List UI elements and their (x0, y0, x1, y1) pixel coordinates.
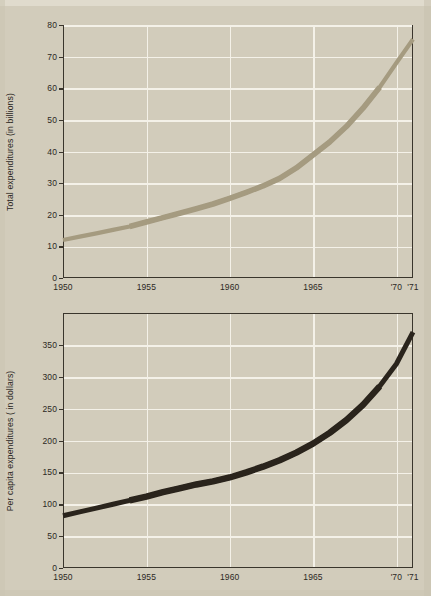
series-path (63, 332, 413, 516)
chart-per-capita-expenditures: 0501001502002503003501950195519601965'70… (0, 0, 431, 596)
data-series-line (0, 0, 431, 596)
series-path-thick (130, 386, 380, 500)
figure-page: 010203040506070801950195519601965'70'71T… (0, 0, 431, 596)
